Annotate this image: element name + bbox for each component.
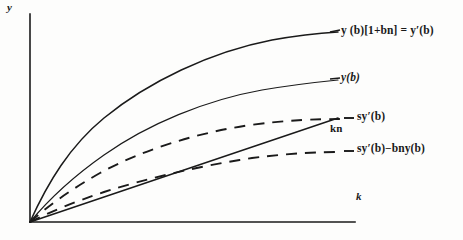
curve-label-sy-prime-b-minus-bny-b: sy′(b)−bny(b) [357,142,425,154]
curve-label-y-b-1plusbn: y (b)[1+bn] = y′(b) [341,24,434,36]
y-axis-label: y [7,1,12,13]
curve-y-b-1plusbn [30,32,338,222]
leader-line-curve-2 [330,78,340,79]
curve-label-y-b: y(b) [341,71,360,83]
annotation-kn: kn [330,122,342,134]
economics-growth-figure: y k y (b)[1+bn] = y′(b) y(b) sy′(b) sy′(… [0,0,463,240]
plot-canvas [0,0,463,240]
k-axis-label: k [356,190,362,202]
curve-kn-ray [30,118,338,222]
curve-y-b [30,80,338,222]
curve-label-sy-prime-b: sy′(b) [357,110,385,122]
